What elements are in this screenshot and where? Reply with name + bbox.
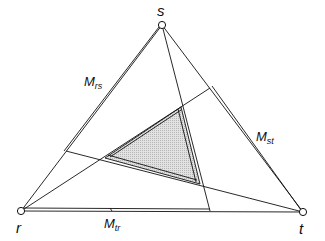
vertex-label-s: s <box>157 3 165 18</box>
vertex-s-circle <box>158 21 165 28</box>
segment-label-Mrs: Mrs <box>84 75 102 91</box>
vertex-r-circle <box>17 207 24 214</box>
segment-label-Mtr: Mtr <box>104 217 120 233</box>
vertex-t-circle <box>299 208 306 215</box>
triangle-diagram <box>0 0 325 241</box>
vertex-label-r: r <box>16 220 21 235</box>
cevian-lines <box>21 25 303 212</box>
edge-rs <box>21 25 162 211</box>
segment-Mtr <box>24 208 210 209</box>
vertices <box>17 21 306 215</box>
segment-label-Mst: Mst <box>256 130 274 146</box>
edge-tr <box>21 211 303 212</box>
vertex-label-t: t <box>299 221 303 236</box>
segment-Mst <box>212 86 301 210</box>
